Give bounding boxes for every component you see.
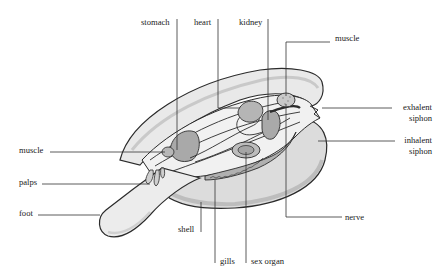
label-muscle-left: muscle <box>19 145 43 156</box>
clam-anatomy-diagram: stomach heart kidney muscle exhalent sip… <box>0 0 446 280</box>
label-stomach: stomach <box>141 17 170 28</box>
label-gills: gills <box>220 256 235 267</box>
label-inhalent-2: siphon <box>398 146 432 157</box>
label-exhalent-1: exhalent <box>398 102 432 113</box>
label-exhalent-2: siphon <box>398 113 432 124</box>
label-inhalent-1: inhalent <box>398 135 432 146</box>
label-nerve: nerve <box>345 212 364 223</box>
label-muscle-top: muscle <box>335 33 359 44</box>
label-heart: heart <box>194 17 211 28</box>
diagram-artwork <box>0 0 446 280</box>
label-palps: palps <box>19 177 37 188</box>
label-foot: foot <box>19 208 33 219</box>
label-shell: shell <box>178 224 194 235</box>
label-kidney: kidney <box>239 17 262 28</box>
label-sex-organ: sex organ <box>251 256 284 267</box>
